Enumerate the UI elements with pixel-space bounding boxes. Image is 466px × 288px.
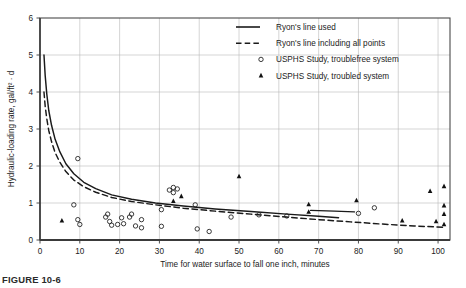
y-axis-title: Hydraulic-loading rate, gal/ft² · d <box>7 70 16 187</box>
x-tick-label: 0 <box>38 247 43 256</box>
x-tick-label: 10 <box>75 247 85 256</box>
x-tick-label: 100 <box>431 247 445 256</box>
y-tick-label: 0 <box>28 236 33 245</box>
figure-caption: FIGURE 10-6 <box>2 274 61 288</box>
legend-label: USPHS Study, troubled system <box>276 72 389 81</box>
y-tick-label: 1 <box>28 199 33 208</box>
x-tick-label: 80 <box>354 247 364 256</box>
y-tick-label: 4 <box>28 88 33 97</box>
x-tick-label: 90 <box>394 247 404 256</box>
x-tick-label: 70 <box>314 247 324 256</box>
x-tick-label: 50 <box>234 247 244 256</box>
figure-container: 01020304050607080901000123456Time for wa… <box>0 0 466 288</box>
chart-canvas: 01020304050607080901000123456Time for wa… <box>0 0 466 288</box>
legend-label: USPHS Study, troublefree system <box>276 55 399 64</box>
y-tick-label: 6 <box>28 14 33 23</box>
y-tick-label: 5 <box>28 51 33 60</box>
x-tick-label: 40 <box>195 247 205 256</box>
legend-label: Ryon's line including all points <box>276 39 385 48</box>
x-tick-label: 60 <box>274 247 284 256</box>
x-tick-label: 20 <box>115 247 125 256</box>
y-tick-label: 3 <box>28 125 33 134</box>
x-axis-title: Time for water surface to fall one inch,… <box>160 260 329 269</box>
y-tick-label: 2 <box>28 162 33 171</box>
legend-label: Ryon's line used <box>276 23 336 32</box>
x-tick-label: 30 <box>155 247 165 256</box>
